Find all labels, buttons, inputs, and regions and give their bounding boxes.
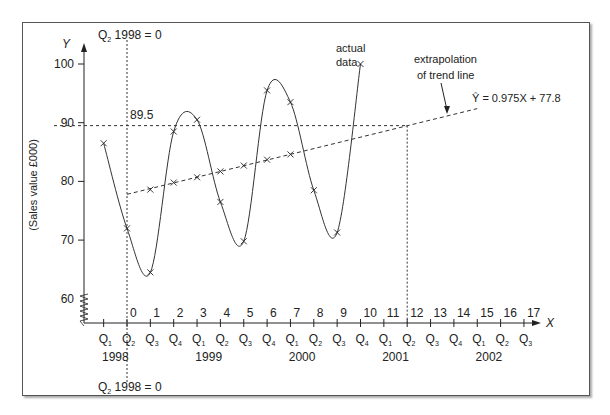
x-tick-label: 17 <box>527 306 541 320</box>
x-tick-label: 2 <box>177 306 184 320</box>
y-tick-label: 70 <box>61 233 75 247</box>
year-label: 2001 <box>382 350 409 364</box>
forecast-value-label: 89.5 <box>130 108 154 122</box>
trend-point <box>264 157 270 163</box>
x-tick-label: 1 <box>153 306 160 320</box>
x-tick-label: 11 <box>387 306 400 320</box>
trend-point <box>287 151 293 157</box>
y-tick-label: 80 <box>61 174 75 188</box>
x-tick-label: 8 <box>317 306 324 320</box>
actual-data-point <box>311 187 317 193</box>
x-tick-label: 13 <box>434 306 448 320</box>
x-tick-label: 15 <box>480 306 494 320</box>
quarter-label: Q1 <box>285 332 298 347</box>
quarter-label: Q4 <box>169 332 182 347</box>
extrapolation-pointer-line <box>441 83 447 110</box>
y-axis-title: (Sales value £000) <box>27 139 39 231</box>
actual-data-point <box>124 225 130 231</box>
x-tick-label: 4 <box>223 306 230 320</box>
x-tick-label: 6 <box>270 306 277 320</box>
y-axis-arrow-icon <box>81 43 87 52</box>
extrapolation-label-1: extrapolation <box>414 53 477 65</box>
x-tick-label: 9 <box>340 306 347 320</box>
year-label: 1998 <box>102 350 129 364</box>
x-tick-label: 5 <box>247 306 254 320</box>
actual-data-point <box>287 99 293 105</box>
extrapolation-label-2: of trend line <box>417 69 474 81</box>
year-label: 2002 <box>476 350 503 364</box>
x-axis-label: X <box>545 316 555 330</box>
actual-data-point <box>241 238 247 244</box>
quarter-label: Q3 <box>332 332 345 347</box>
quarter-label: Q4 <box>262 332 275 347</box>
quarter-label: Q3 <box>239 332 252 347</box>
origin-note-top: Q2 1998 = 0 <box>98 28 162 43</box>
actual-data-point <box>194 117 200 123</box>
y-tick-label: 90 <box>61 116 75 130</box>
x-tick-label: 7 <box>293 306 300 320</box>
x-tick-label: 10 <box>364 306 378 320</box>
quarter-label: Q3 <box>145 332 158 347</box>
quarter-label: Q1 <box>192 332 205 347</box>
year-label: 1999 <box>195 350 222 364</box>
quarter-label: Q3 <box>519 332 532 347</box>
quarter-label: Q3 <box>426 332 439 347</box>
actual-data-label-2: data <box>336 56 358 68</box>
x-tick-label: 16 <box>504 306 518 320</box>
quarter-label: Q4 <box>356 332 369 347</box>
actual-data-point <box>217 199 223 205</box>
actual-data-point <box>147 269 153 275</box>
actual-data-point <box>171 129 177 135</box>
trend-chart: Y6070 80 90 100 (Sales value £000)XQ10Q2… <box>0 0 610 415</box>
x-tick-label: 12 <box>410 306 424 320</box>
actual-data-label-1: actual <box>336 42 365 54</box>
quarter-label: Q2 <box>402 332 415 347</box>
quarter-label: Q2 <box>122 332 135 347</box>
trend-extrapolation-line <box>127 109 477 195</box>
x-tick-label: 0 <box>130 306 137 320</box>
extrapolation-arrow-icon <box>444 106 450 114</box>
actual-data-point <box>264 87 270 93</box>
quarter-label: Q4 <box>449 332 462 347</box>
y-tick-label: 100 <box>54 57 74 71</box>
x-tick-label: 14 <box>457 306 471 320</box>
quarter-label: Q1 <box>472 332 485 347</box>
x-tick-label: 3 <box>200 306 207 320</box>
trend-equation: Ŷ = 0.975X + 77.8 <box>472 92 561 104</box>
x-axis-arrow-icon <box>532 320 541 326</box>
quarter-label: Q2 <box>496 332 509 347</box>
quarter-label: Q1 <box>99 332 112 347</box>
actual-data-point <box>334 229 340 235</box>
quarter-label: Q1 <box>379 332 392 347</box>
y-tick-label: 60 <box>61 292 75 306</box>
origin-note-bottom: Q2 1998 = 0 <box>98 380 162 395</box>
actual-data-point <box>101 140 107 146</box>
actual-data-curve <box>104 64 361 276</box>
quarter-label: Q2 <box>215 332 228 347</box>
year-label: 2000 <box>289 350 316 364</box>
quarter-label: Q2 <box>309 332 322 347</box>
y-axis-label: Y <box>62 37 71 51</box>
